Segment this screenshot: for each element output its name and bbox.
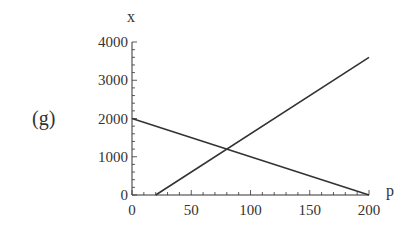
y-tick-label: 4000 bbox=[98, 34, 128, 50]
series-line-increasing bbox=[156, 57, 369, 195]
x-tick-label: 100 bbox=[239, 202, 262, 218]
y-tick-label: 0 bbox=[121, 187, 129, 203]
y-tick-label: 2000 bbox=[98, 111, 128, 127]
x-tick-label: 0 bbox=[128, 202, 136, 218]
x-axis-label: p bbox=[386, 182, 394, 200]
series-group bbox=[132, 57, 369, 195]
series-line-decreasing bbox=[132, 119, 369, 196]
chart: (g) 05010015020001000200030004000 x p bbox=[0, 0, 418, 242]
x-tick-label: 150 bbox=[299, 202, 322, 218]
y-tick-label: 3000 bbox=[98, 72, 128, 88]
axes bbox=[132, 42, 369, 195]
x-tick-label: 200 bbox=[358, 202, 381, 218]
y-tick-label: 1000 bbox=[98, 149, 128, 165]
x-tick-label: 50 bbox=[184, 202, 199, 218]
ticks: 05010015020001000200030004000 bbox=[98, 34, 380, 218]
y-axis-label: x bbox=[127, 8, 135, 25]
panel-label: (g) bbox=[32, 107, 55, 130]
